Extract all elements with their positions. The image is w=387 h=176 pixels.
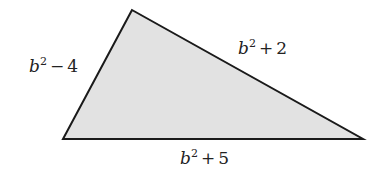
side-label-left-constant: 4: [67, 56, 78, 76]
side-label-bottom-constant: 5: [218, 148, 229, 168]
triangle-shape: [63, 10, 363, 139]
side-label-left-operator: −: [50, 56, 64, 76]
side-label-right-variable: b: [238, 38, 249, 58]
side-label-bottom: b2+5: [180, 150, 229, 167]
side-label-bottom-operator: +: [201, 148, 215, 168]
side-label-left: b2−4: [29, 58, 78, 75]
side-label-right-constant: 2: [276, 38, 287, 58]
side-label-right-operator: +: [259, 38, 273, 58]
side-label-left-exponent: 2: [40, 55, 47, 68]
side-label-right-exponent: 2: [249, 37, 256, 50]
side-label-bottom-variable: b: [180, 148, 191, 168]
side-label-right: b2+2: [238, 40, 287, 57]
side-label-bottom-exponent: 2: [191, 147, 198, 160]
side-label-left-variable: b: [29, 56, 40, 76]
